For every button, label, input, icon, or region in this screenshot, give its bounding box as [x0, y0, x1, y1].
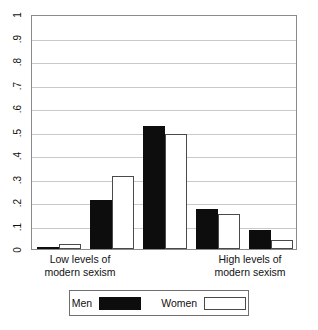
y-axis-tick-0: 0	[12, 239, 24, 261]
y-axis-tick-6: .6	[12, 98, 24, 120]
legend-swatch-women	[204, 297, 246, 310]
y-axis-tick-8: .8	[12, 51, 24, 73]
plot-area	[31, 15, 297, 250]
bar-women-group-1	[59, 244, 81, 249]
bar-women-group-2	[112, 176, 134, 249]
y-axis-tick-1: .1	[12, 216, 24, 238]
bar-men-group-4	[196, 209, 218, 249]
x-axis-label-high: High levels of modern sexism	[196, 253, 304, 278]
y-axis-tick-5: .5	[12, 122, 24, 144]
y-axis-tick-10: 1	[12, 4, 24, 26]
legend-swatch-men	[99, 297, 141, 310]
chart-legend: Men Women	[69, 290, 249, 316]
bar-men-group-3	[143, 126, 165, 249]
bar-men-group-5	[249, 230, 271, 249]
bar-men-group-2	[90, 200, 112, 249]
y-axis-tick-9: .9	[12, 28, 24, 50]
y-axis-tick-3: .3	[12, 169, 24, 191]
x-axis-label-low: Low levels of modern sexism	[26, 253, 134, 278]
legend-label-men: Men	[72, 297, 92, 309]
legend-label-women: Women	[161, 297, 197, 309]
bar-women-group-4	[218, 214, 240, 249]
y-axis-tick-2: .2	[12, 192, 24, 214]
y-axis-tick-4: .4	[12, 145, 24, 167]
bar-women-group-3	[165, 134, 187, 249]
bars-layer	[32, 16, 296, 249]
bar-women-group-5	[271, 240, 293, 249]
y-axis-tick-7: .7	[12, 75, 24, 97]
bar-chart-figure: 0.1.2.3.4.5.6.7.8.91 Low levels of moder…	[0, 0, 318, 330]
bar-men-group-1	[37, 247, 59, 249]
